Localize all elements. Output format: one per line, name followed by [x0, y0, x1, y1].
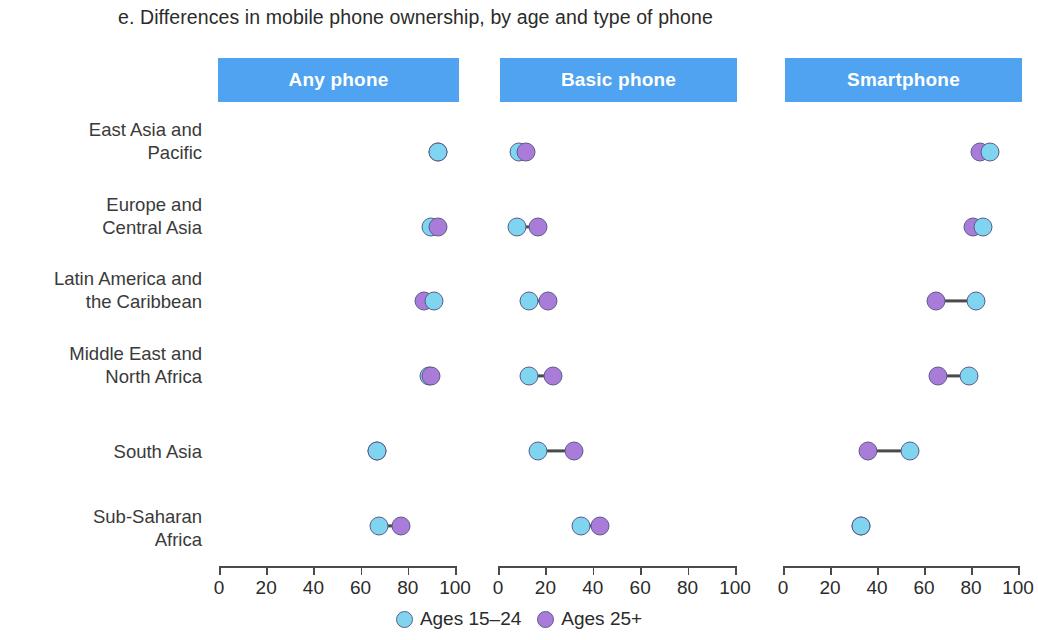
data-point-ages-15-24 — [900, 442, 919, 461]
data-point-ages-15-24 — [429, 143, 448, 162]
legend-swatch-young-icon — [396, 611, 413, 628]
axis-tick-label: 40 — [866, 577, 887, 599]
axis-tick — [830, 566, 832, 575]
row-label: Sub-Saharan Africa — [0, 505, 208, 551]
data-point-ages-25-plus — [564, 442, 583, 461]
legend-label: Ages 15–24 — [420, 608, 521, 630]
data-point-ages-25-plus — [858, 442, 877, 461]
data-point-ages-15-24 — [959, 367, 978, 386]
axis-tick — [783, 566, 785, 575]
panel-header-smartphone: Smartphone — [785, 58, 1022, 102]
axis-tick-label: 40 — [582, 577, 603, 599]
data-point-ages-25-plus — [391, 517, 410, 536]
chart-figure: e. Differences in mobile phone ownership… — [0, 0, 1038, 640]
panel-header-basic-phone: Basic phone — [500, 58, 737, 102]
data-point-ages-25-plus — [926, 292, 945, 311]
axis-tick-label: 0 — [214, 577, 225, 599]
data-point-ages-25-plus — [590, 517, 609, 536]
data-point-ages-15-24 — [507, 218, 526, 237]
row-label: South Asia — [0, 440, 208, 463]
data-point-ages-15-24 — [851, 517, 870, 536]
panel-header-any-phone: Any phone — [218, 58, 459, 102]
data-point-ages-25-plus — [429, 218, 448, 237]
axis-tick — [455, 566, 457, 575]
data-point-ages-15-24 — [519, 367, 538, 386]
axis-tick — [640, 566, 642, 575]
axis-line — [783, 566, 1018, 568]
axis-line — [498, 566, 735, 568]
row-label-column: East Asia and PacificEurope and Central … — [0, 0, 208, 640]
axis-tick-label: 100 — [719, 577, 751, 599]
axis-tick — [361, 566, 363, 575]
data-point-ages-15-24 — [973, 218, 992, 237]
axis-tick-label: 20 — [256, 577, 277, 599]
data-point-ages-15-24 — [424, 292, 443, 311]
axis-tick-label: 20 — [819, 577, 840, 599]
axis-tick — [735, 566, 737, 575]
axis-tick — [1018, 566, 1020, 575]
axis-tick-label: 0 — [778, 577, 789, 599]
axis-tick — [877, 566, 879, 575]
legend-swatch-older-icon — [537, 611, 554, 628]
data-point-ages-25-plus — [517, 143, 536, 162]
data-point-ages-15-24 — [966, 292, 985, 311]
axis-tick-label: 60 — [350, 577, 371, 599]
axis-line — [219, 566, 455, 568]
row-label: Latin America and the Caribbean — [0, 267, 208, 313]
legend-item-young[interactable]: Ages 15–24 — [396, 608, 521, 630]
legend-item-older[interactable]: Ages 25+ — [537, 608, 642, 630]
axis-tick-label: 100 — [439, 577, 471, 599]
row-label: Middle East and North Africa — [0, 342, 208, 388]
axis-tick — [219, 566, 221, 575]
data-point-ages-15-24 — [529, 442, 548, 461]
data-point-ages-25-plus — [543, 367, 562, 386]
panel-header-label: Smartphone — [847, 69, 960, 91]
data-point-ages-15-24 — [571, 517, 590, 536]
axis-tick — [688, 566, 690, 575]
row-label: East Asia and Pacific — [0, 118, 208, 164]
axis-tick-label: 20 — [535, 577, 556, 599]
axis-tick-label: 80 — [397, 577, 418, 599]
data-point-ages-15-24 — [370, 517, 389, 536]
axis-tick-label: 60 — [913, 577, 934, 599]
chart-legend: Ages 15–24Ages 25+ — [0, 608, 1038, 630]
axis-tick — [313, 566, 315, 575]
axis-tick-label: 60 — [630, 577, 651, 599]
data-point-ages-15-24 — [980, 143, 999, 162]
data-point-ages-15-24 — [368, 442, 387, 461]
data-point-ages-25-plus — [422, 367, 441, 386]
axis-tick-label: 100 — [1002, 577, 1034, 599]
data-point-ages-25-plus — [538, 292, 557, 311]
axis-tick-label: 0 — [493, 577, 504, 599]
axis-tick — [971, 566, 973, 575]
row-label: Europe and Central Asia — [0, 193, 208, 239]
axis-tick — [593, 566, 595, 575]
panel-header-label: Any phone — [289, 69, 389, 91]
panel-header-label: Basic phone — [561, 69, 676, 91]
axis-tick — [924, 566, 926, 575]
axis-tick — [408, 566, 410, 575]
axis-tick-label: 80 — [677, 577, 698, 599]
axis-tick — [545, 566, 547, 575]
axis-tick — [266, 566, 268, 575]
data-point-ages-15-24 — [519, 292, 538, 311]
axis-tick-label: 40 — [303, 577, 324, 599]
legend-label: Ages 25+ — [561, 608, 642, 630]
x-axis-panel-1: 020406080100 — [219, 566, 455, 596]
axis-tick — [498, 566, 500, 575]
x-axis-panel-3: 020406080100 — [783, 566, 1018, 596]
x-axis-panel-2: 020406080100 — [498, 566, 735, 596]
data-point-ages-25-plus — [529, 218, 548, 237]
data-point-ages-25-plus — [929, 367, 948, 386]
axis-tick-label: 80 — [960, 577, 981, 599]
